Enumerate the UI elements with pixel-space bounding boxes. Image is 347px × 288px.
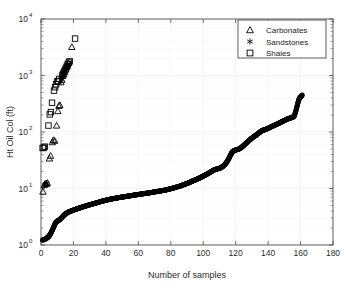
y-axis-title: Ht Oil Col (ft) — [5, 106, 15, 158]
legend-label: Shales — [266, 49, 290, 58]
x-tick-label: 140 — [261, 248, 275, 258]
x-tick-label: 0 — [39, 248, 44, 258]
svg-text:10: 10 — [19, 71, 29, 81]
x-tick-label: 40 — [101, 248, 111, 258]
svg-text:10: 10 — [19, 127, 29, 137]
x-tick-label: 120 — [229, 248, 243, 258]
marker-dot — [300, 93, 305, 98]
x-tick-label: 180 — [326, 248, 340, 258]
x-tick-label: 80 — [166, 248, 176, 258]
svg-text:10: 10 — [19, 184, 29, 194]
svg-text:10: 10 — [19, 14, 29, 24]
x-axis-title: Number of samples — [148, 270, 227, 280]
x-tick-label: 100 — [196, 248, 210, 258]
x-tick-label: 160 — [293, 248, 307, 258]
x-tick-label: 60 — [134, 248, 144, 258]
ht-oil-col-scatter-plot: 020406080100120140160180 100101102103104… — [0, 0, 347, 288]
x-tick-label: 20 — [69, 248, 79, 258]
legend-label: Carbonates — [266, 26, 307, 35]
chart-figure: 020406080100120140160180 100101102103104… — [0, 0, 347, 288]
legend-label: Sandstones — [266, 38, 308, 47]
legend[interactable]: CarbonatesSandstonesShales — [238, 20, 326, 58]
svg-text:10: 10 — [19, 240, 29, 250]
